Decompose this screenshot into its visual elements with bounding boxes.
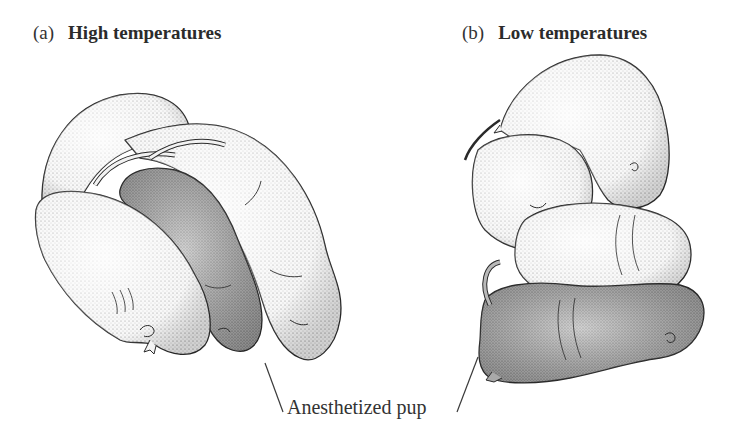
illustration (0, 0, 729, 446)
panel-b-pile (465, 55, 704, 383)
leader-line-a (265, 363, 283, 412)
panel-a-huddle (35, 93, 341, 359)
leader-line-b (457, 357, 478, 412)
anesthetized-pup-callout: Anesthetized pup (287, 396, 426, 419)
